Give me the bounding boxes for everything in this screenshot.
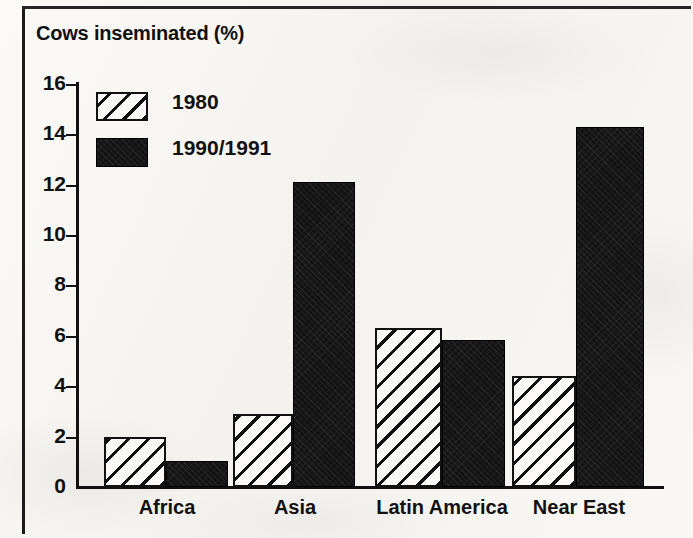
hatched-swatch-icon <box>96 92 148 121</box>
y-axis-tick-mark <box>66 185 77 187</box>
y-axis-tick-label: 0 <box>26 474 66 498</box>
legend-label-1980: 1980 <box>172 90 219 114</box>
bar-near-east-1990-1991 <box>576 127 644 487</box>
y-axis-tick-mark <box>66 84 77 86</box>
y-axis-tick-label: 8 <box>26 272 66 296</box>
y-axis-tick-mark <box>66 285 77 287</box>
y-axis-tick-mark <box>66 134 77 136</box>
bar-asia-1980 <box>233 414 293 487</box>
y-axis-tick-label: 12 <box>26 172 66 196</box>
bar-asia-1990-1991 <box>293 182 355 487</box>
legend-label-1990-1991: 1990/1991 <box>172 136 271 160</box>
bar-africa-1990-1991 <box>166 461 228 487</box>
solid-black-swatch-icon <box>96 138 148 167</box>
y-axis-tick-mark <box>66 386 77 388</box>
bar-latin-america-1980 <box>375 328 442 487</box>
y-axis-tick-label: 10 <box>26 222 66 246</box>
x-axis-label-near-east: Near East <box>469 496 689 519</box>
y-axis-tick-mark <box>66 336 77 338</box>
plot-area: 1614121086420 AfricaAsiaLatin AmericaNea… <box>0 0 693 538</box>
y-axis-tick-label: 6 <box>26 323 66 347</box>
y-axis-tick-label: 14 <box>26 121 66 145</box>
bar-africa-1980 <box>104 437 166 487</box>
y-axis-tick-mark <box>66 235 77 237</box>
bar-chart-figure: Cows inseminated (%) 1614121086420 Afric… <box>0 0 693 538</box>
y-axis-tick-label: 16 <box>26 71 66 95</box>
y-axis-tick-label: 4 <box>26 373 66 397</box>
y-axis-tick-mark <box>66 437 77 439</box>
bar-near-east-1980 <box>512 376 576 487</box>
y-axis-tick-label: 2 <box>26 424 66 448</box>
bar-latin-america-1990-1991 <box>442 340 505 487</box>
